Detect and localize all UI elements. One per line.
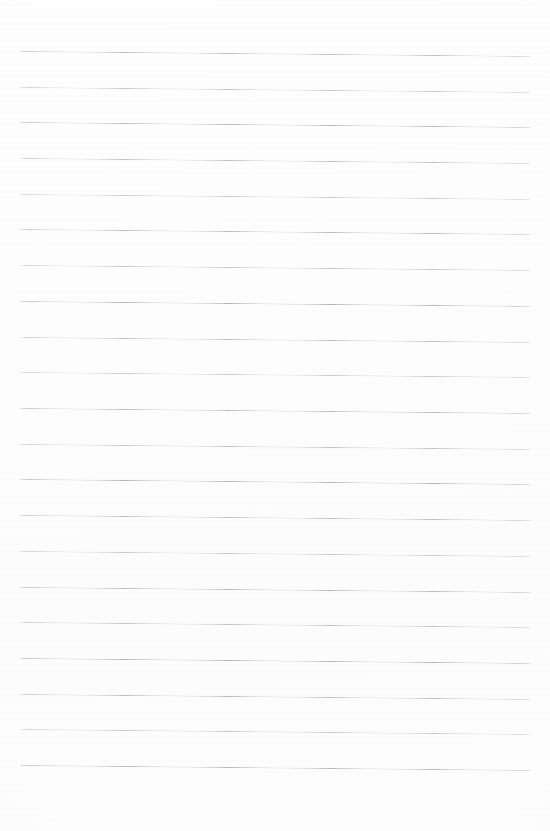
paper-sheet (0, 0, 550, 831)
writing-area[interactable] (20, 40, 531, 785)
